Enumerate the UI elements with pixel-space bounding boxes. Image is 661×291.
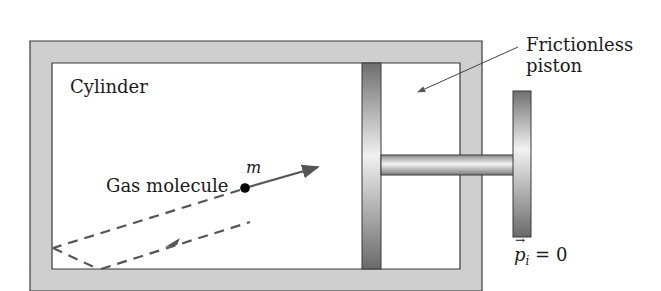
piston-plate [362, 63, 381, 269]
piston-label-line1: Frictionless [526, 34, 633, 55]
momentum-symbol: p [514, 244, 526, 265]
frictionless-piston-label: Frictionless piston [526, 34, 633, 76]
piston-rod [381, 155, 514, 175]
gas-molecule-dot [240, 183, 250, 193]
vector-arrow-icon: → [515, 233, 525, 247]
cylinder-label: Cylinder [70, 76, 148, 97]
initial-momentum-label: →pi = 0 [514, 244, 567, 268]
gas-molecule-label: Gas molecule [106, 175, 228, 196]
momentum-vector: →p [514, 244, 526, 265]
cylinder-piston-diagram: Cylinder Gas molecule m Frictionless pis… [0, 0, 661, 291]
piston-label-line2: piston [526, 55, 633, 76]
piston-handle [513, 91, 531, 237]
return-path-arrow-icon [165, 238, 180, 247]
molecule-path [53, 190, 250, 269]
momentum-value: = 0 [529, 244, 567, 265]
mass-label: m [246, 158, 261, 177]
